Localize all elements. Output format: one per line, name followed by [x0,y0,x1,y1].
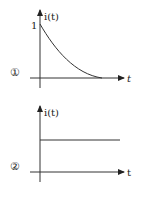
plot-1-id-label: ① [10,66,20,79]
diagram-canvas: i(t) 1 t ① i(t) t ② [0,0,144,198]
plot-2-id-label: ② [10,160,20,173]
plot-1-decay-curve [40,24,102,78]
plot-2-x-label: t [127,167,131,178]
plot-1-x-label: t [127,73,132,84]
plot-2: i(t) t ② [10,106,131,182]
plot-1: i(t) 1 t ① [10,10,132,88]
plot-1-y-label: i(t) [44,11,59,22]
plot-1-y-tick: 1 [31,20,37,31]
plot-2-y-label: i(t) [44,107,59,118]
